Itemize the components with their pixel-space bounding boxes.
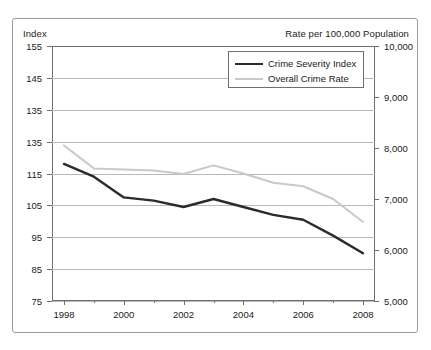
x-axis-tick-label: 2002: [163, 309, 205, 320]
left-axis-tick-label: 135: [2, 136, 42, 147]
right-axis-tick-label: 5,000: [384, 296, 430, 307]
right-axis-tick-label: 7,000: [384, 194, 430, 205]
legend-line-icon-dark: [235, 63, 263, 65]
legend-item-overall-crime-rate: Overall Crime Rate: [235, 71, 357, 86]
left-axis-title: Index: [23, 28, 47, 39]
series-line-crime-severity-index: [64, 164, 363, 253]
legend-line-icon-light: [235, 78, 263, 80]
left-axis-tick-label: 115: [2, 168, 42, 179]
left-axis-tick-label: 85: [2, 264, 42, 275]
left-axis-tick-label: 75: [2, 296, 42, 307]
legend-label-crime-severity-index: Crime Severity Index: [268, 58, 356, 69]
right-tick: [374, 301, 379, 302]
series-line-overall-crime-rate: [64, 145, 363, 222]
right-axis-tick-label: 9,000: [384, 92, 430, 103]
legend: Crime Severity Index Overall Crime Rate: [228, 51, 364, 88]
chart-page: Index Rate per 100,000 Population 155145…: [0, 0, 431, 350]
left-axis-tick-label: 95: [2, 232, 42, 243]
right-axis-tick-label: 6,000: [384, 245, 430, 256]
x-axis-tick-label: 2008: [342, 309, 384, 320]
legend-label-overall-crime-rate: Overall Crime Rate: [268, 73, 349, 84]
left-axis-tick-label: 145: [2, 72, 42, 83]
x-axis-tick-label: 2000: [103, 309, 145, 320]
left-tick: [47, 301, 52, 302]
left-axis-tick-label: 135: [2, 104, 42, 115]
left-axis-tick-label: 105: [2, 200, 42, 211]
left-axis-tick-label: 155: [2, 41, 42, 52]
x-axis-tick-label: 2004: [222, 309, 264, 320]
legend-item-crime-severity-index: Crime Severity Index: [235, 56, 357, 71]
right-axis-title: Rate per 100,000 Population: [285, 28, 409, 39]
x-axis-tick-label: 1998: [43, 309, 85, 320]
right-axis-tick-label: 10,000: [384, 41, 430, 52]
right-axis-tick-label: 8,000: [384, 143, 430, 154]
x-axis-tick-label: 2006: [282, 309, 324, 320]
